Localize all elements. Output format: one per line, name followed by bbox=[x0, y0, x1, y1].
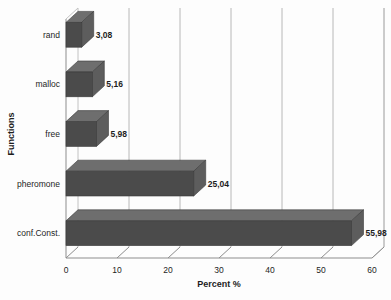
tick-mark-0 bbox=[66, 247, 78, 258]
x-tick-label-40: 40 bbox=[265, 265, 275, 275]
bar-value-label: 25,04 bbox=[208, 179, 230, 189]
category-label-1: malloc bbox=[35, 79, 60, 89]
tick-mark-40 bbox=[270, 247, 282, 258]
category-label-0: rand bbox=[43, 30, 60, 40]
bar-rand[interactable]: 3,08 bbox=[66, 11, 113, 47]
bar-value-label: 5,98 bbox=[110, 129, 127, 139]
tick-mark-50 bbox=[321, 247, 333, 258]
x-tick-label-60: 60 bbox=[367, 265, 377, 275]
category-label-2: free bbox=[45, 129, 60, 139]
category-label-3: pheromone bbox=[17, 179, 60, 189]
y-axis-title: Functions bbox=[6, 113, 16, 156]
x-axis-ticks bbox=[66, 247, 384, 258]
chart-canvas: 3,08rand5,16malloc5,98free25,04pheromone… bbox=[0, 0, 391, 300]
x-tick-label-10: 10 bbox=[112, 265, 122, 275]
bar-front-face bbox=[66, 221, 351, 246]
bar-chart-figure: 3,08rand5,16malloc5,98free25,04pheromone… bbox=[0, 0, 391, 300]
x-tick-label-20: 20 bbox=[163, 265, 173, 275]
bar-front-face bbox=[66, 122, 96, 147]
bar-malloc[interactable]: 5,16 bbox=[66, 61, 123, 97]
tick-mark-10 bbox=[117, 247, 129, 258]
bar-value-label: 3,08 bbox=[96, 30, 113, 40]
x-tick-label-0: 0 bbox=[64, 265, 69, 275]
bars-group: 3,08rand5,16malloc5,98free25,04pheromone… bbox=[17, 11, 387, 245]
x-axis-title: Percent % bbox=[197, 279, 241, 289]
bar-value-label: 55,98 bbox=[365, 228, 387, 238]
tick-mark-30 bbox=[219, 247, 231, 258]
tick-mark-60 bbox=[372, 247, 384, 258]
bar-confconst[interactable]: 55,98 bbox=[66, 210, 387, 246]
x-tick-labels: 0102030405060 bbox=[64, 265, 377, 275]
bar-front-face bbox=[66, 72, 92, 97]
bar-free[interactable]: 5,98 bbox=[66, 111, 127, 147]
bar-front-face bbox=[66, 171, 194, 196]
category-label-4: conf.Const. bbox=[17, 228, 60, 238]
bar-value-label: 5,16 bbox=[106, 79, 123, 89]
x-tick-label-30: 30 bbox=[214, 265, 224, 275]
bar-top-face bbox=[66, 210, 363, 221]
bar-front-face bbox=[66, 22, 82, 47]
bar-top-face bbox=[66, 160, 206, 171]
tick-mark-20 bbox=[168, 247, 180, 258]
bar-pheromone[interactable]: 25,04 bbox=[66, 160, 229, 196]
x-tick-label-50: 50 bbox=[316, 265, 326, 275]
